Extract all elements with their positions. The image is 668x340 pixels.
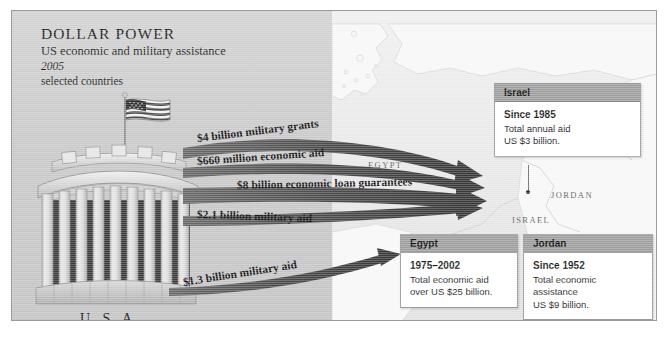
figure-title: DOLLAR POWER (41, 24, 226, 43)
info-box-jordan-title: Jordan (524, 235, 652, 253)
info-box-jordan-body: Since 1952 Total economic assistance US … (524, 253, 652, 319)
info-box-israel-line1: Total annual aid (504, 123, 631, 136)
info-box-jordan-line1: Total economic assistance (533, 274, 643, 299)
figure-subtitle: US economic and military assistance (41, 43, 226, 59)
info-box-israel-line2: US $3 billion. (504, 135, 631, 148)
info-box-jordan-period: Since 1952 (533, 260, 643, 273)
info-box-israel-body: Since 1985 Total annual aid US $3 billio… (495, 102, 640, 156)
info-box-jordan-line2: US $9 billion. (533, 299, 643, 312)
info-box-israel-leader-dot (526, 190, 530, 194)
info-box-israel-leader-line (528, 165, 529, 192)
usa-label: U S A (80, 311, 137, 321)
info-box-egypt: Egypt 1975–2002 Total economic aid over … (400, 234, 518, 308)
figure-panel: EGYPT ISRAEL JORDAN (11, 10, 657, 321)
info-box-israel: Israel Since 1985 Total annual aid US $3… (494, 83, 641, 157)
info-box-israel-title: Israel (495, 84, 640, 102)
infographic-dollar-power: EGYPT ISRAEL JORDAN (0, 0, 668, 340)
figure-note: selected countries (41, 74, 226, 89)
info-box-egypt-title: Egypt (401, 235, 517, 253)
info-box-jordan: Jordan Since 1952 Total economic assista… (523, 234, 653, 320)
info-box-israel-period: Since 1985 (504, 109, 631, 122)
info-box-egypt-body: 1975–2002 Total economic aid over US $25… (401, 253, 517, 307)
info-box-egypt-line1: Total economic aid (410, 274, 508, 287)
figure-year: 2005 (41, 59, 226, 74)
title-block: DOLLAR POWER US economic and military as… (41, 24, 226, 89)
info-box-egypt-period: 1975–2002 (410, 260, 508, 273)
info-box-egypt-line2: over US $25 billion. (410, 286, 508, 299)
